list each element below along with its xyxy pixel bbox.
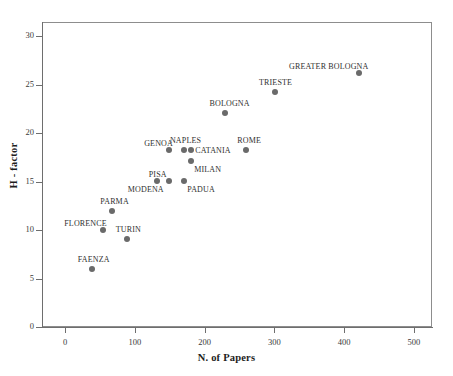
x-tick-label: 500 (394, 338, 434, 347)
y-tick-label: 5 (16, 274, 34, 283)
y-tick (36, 230, 42, 231)
data-point-label: MODENA (128, 185, 164, 194)
y-tick-label: 25 (16, 80, 34, 89)
y-tick-label: 15 (16, 177, 34, 186)
scatter-chart: 051015202530 0100200300400500 GREATER BO… (0, 0, 453, 376)
y-tick (36, 133, 42, 134)
x-tick (344, 327, 345, 333)
y-tick (36, 327, 42, 328)
data-point-label: PADUA (187, 185, 215, 194)
x-axis-title: N. of Papers (0, 352, 453, 363)
data-point[interactable] (124, 236, 130, 242)
data-point-label: GREATER BOLOGNA (289, 62, 368, 71)
data-point[interactable] (89, 266, 95, 272)
y-tick-label: 20 (16, 128, 34, 137)
data-point-label: TRIESTE (259, 78, 292, 87)
data-point-label: FLORENCE (64, 219, 107, 228)
data-point-label: TURIN (116, 225, 141, 234)
y-tick (36, 36, 42, 37)
x-tick-label: 300 (254, 338, 294, 347)
x-tick-label: 0 (45, 338, 85, 347)
data-point-label: GENOA (144, 139, 173, 148)
x-tick (205, 327, 206, 333)
y-tick-label: 0 (16, 322, 34, 331)
data-point[interactable] (109, 208, 115, 214)
x-tick (414, 327, 415, 333)
y-tick (36, 85, 42, 86)
y-tick (36, 182, 42, 183)
y-tick-label: 30 (16, 31, 34, 40)
data-point-label: PISA (149, 170, 167, 179)
x-tick (135, 327, 136, 333)
plot-frame (42, 22, 432, 327)
x-tick (65, 327, 66, 333)
data-point-label: BOLOGNA (210, 99, 250, 108)
data-point-label: FAENZA (78, 255, 110, 264)
x-tick-label: 100 (115, 338, 155, 347)
y-tick (36, 279, 42, 280)
x-tick (274, 327, 275, 333)
data-point-label: MILAN (194, 165, 221, 174)
y-axis-line (42, 22, 43, 328)
y-tick-label: 10 (16, 225, 34, 234)
x-tick-label: 200 (185, 338, 225, 347)
data-point[interactable] (181, 178, 187, 184)
data-point-label: ROME (237, 136, 261, 145)
x-tick-label: 400 (324, 338, 364, 347)
x-axis-line (42, 327, 433, 328)
y-axis-title: H - factor (8, 116, 19, 216)
data-point-label: NAPLES (170, 136, 201, 145)
data-point-label: CATANIA (195, 146, 231, 155)
data-point-label: PARMA (100, 197, 128, 206)
